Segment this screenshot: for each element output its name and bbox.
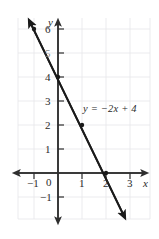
x-axis-name: x	[143, 178, 148, 189]
x-tick-label-2: 2	[103, 178, 109, 189]
data-point	[56, 75, 60, 79]
data-point	[32, 27, 36, 31]
x-tick-label-1: 1	[79, 178, 85, 189]
y-axis-name: y	[48, 17, 53, 28]
y-tick-label-1: 1	[45, 144, 51, 155]
y-tick-label-5: 5	[45, 48, 51, 59]
x-tick-label-0: 0	[46, 177, 52, 188]
equation-annotation: y = −2x + 4	[83, 104, 137, 115]
y-tick-label-3: 3	[45, 96, 51, 107]
coordinate-plane-svg	[0, 0, 159, 239]
data-point	[104, 171, 108, 175]
x-tick-label-3: 3	[127, 178, 133, 189]
data-point	[80, 123, 84, 127]
y-tick-label-4: 4	[45, 72, 51, 83]
y-tick-label-2: 2	[45, 120, 51, 131]
y-tick-label-neg1: −1	[40, 192, 52, 203]
y-axis-ticks	[58, 29, 64, 197]
x-tick-label-neg1: −1	[27, 178, 39, 189]
graph-figure: 6 5 4 3 2 1 −1 −1 0 1 2 3 y x y = −2x + …	[0, 0, 159, 239]
